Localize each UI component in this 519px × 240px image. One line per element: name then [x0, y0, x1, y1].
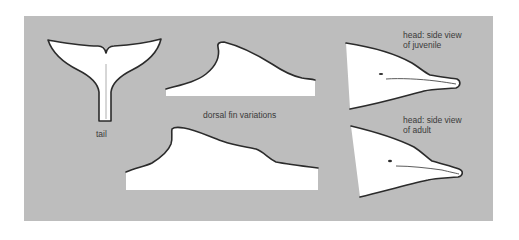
dorsal-fin-top-illustration: [166, 42, 315, 96]
adult-eye: [388, 160, 392, 162]
head-adult-label-line1: head: side view: [403, 115, 462, 125]
head-adult-label: head: side view of adult: [403, 115, 462, 135]
head-juvenile-illustration: [346, 43, 460, 109]
dorsal-fin-bottom-illustration: [126, 127, 318, 190]
head-juvenile-label: head: side view of juvenile: [403, 30, 462, 50]
head-adult-illustration: [351, 126, 462, 197]
head-juvenile-label-line1: head: side view: [403, 30, 462, 40]
head-adult-label-line2: of adult: [403, 125, 462, 135]
head-juvenile-label-line2: of juvenile: [403, 40, 462, 50]
tail-label: tail: [96, 129, 107, 139]
dorsal-fin-label: dorsal fin variations: [203, 110, 276, 120]
tail-illustration: [48, 39, 161, 121]
juvenile-eye: [379, 73, 383, 75]
